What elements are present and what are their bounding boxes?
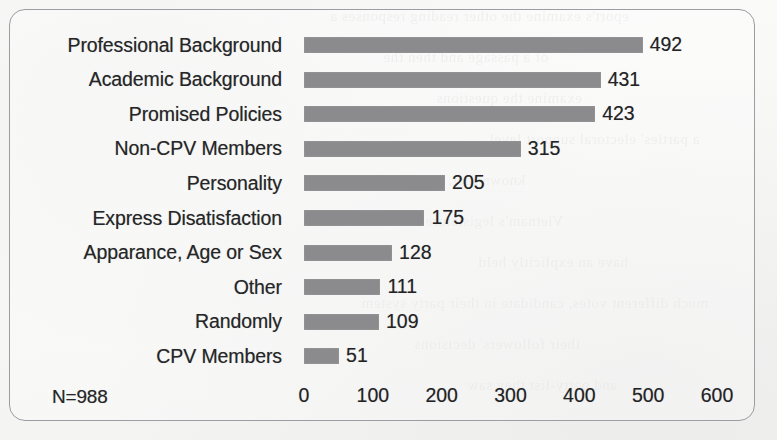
- bar-row: Randomly109: [0, 305, 777, 339]
- bar-value-label: 175: [431, 206, 464, 229]
- bar-row: Professional Background492: [0, 28, 777, 62]
- bar: [304, 210, 424, 226]
- category-label: Other: [0, 276, 292, 299]
- bar: [304, 175, 445, 191]
- x-tick-label: 600: [701, 384, 734, 407]
- category-label: Promised Policies: [0, 103, 292, 126]
- x-axis-tick-labels: 0100200300400500600: [0, 384, 777, 418]
- bar-row: Non-CPV Members315: [0, 132, 777, 166]
- category-label: Non-CPV Members: [0, 137, 292, 160]
- x-tick-label: 100: [357, 384, 390, 407]
- x-tick-label: 0: [299, 384, 310, 407]
- category-label: Professional Background: [0, 34, 292, 57]
- bar-track: 431: [292, 63, 777, 97]
- bar: [304, 72, 601, 88]
- bar: [304, 245, 392, 261]
- bar-chart-plot-area: Professional Background492Academic Backg…: [0, 0, 777, 440]
- bar-row: Personality205: [0, 166, 777, 200]
- bar: [304, 279, 380, 295]
- bar-row: Promised Policies423: [0, 97, 777, 131]
- bar: [304, 314, 379, 330]
- bar: [304, 37, 643, 53]
- bar-track: 128: [292, 236, 777, 270]
- bar-track: 423: [292, 97, 777, 131]
- bar-track: 111: [292, 270, 777, 304]
- bar-value-label: 492: [650, 33, 683, 56]
- bar-value-label: 423: [602, 102, 635, 125]
- x-tick-label: 200: [425, 384, 458, 407]
- sample-size-annotation: N=988: [52, 386, 108, 408]
- category-label: CPV Members: [0, 345, 292, 368]
- category-label: Express Disatisfaction: [0, 207, 292, 230]
- bar-value-label: 128: [399, 241, 432, 264]
- bar-row: Apparance, Age or Sex128: [0, 236, 777, 270]
- bar-track: 205: [292, 166, 777, 200]
- bar-value-label: 109: [386, 310, 419, 333]
- bar: [304, 348, 339, 364]
- bar-row: CPV Members51: [0, 339, 777, 373]
- bar-track: 51: [292, 339, 777, 373]
- bar-track: 109: [292, 305, 777, 339]
- category-label: Randomly: [0, 310, 292, 333]
- bar-value-label: 431: [608, 68, 641, 91]
- bar-value-label: 205: [452, 171, 485, 194]
- bar: [304, 106, 595, 122]
- bar-row: Academic Background431: [0, 63, 777, 97]
- category-label: Personality: [0, 172, 292, 195]
- bar-track: 492: [292, 28, 777, 62]
- category-label: Apparance, Age or Sex: [0, 241, 292, 264]
- bar-value-label: 51: [346, 344, 368, 367]
- bar-value-label: 111: [387, 275, 417, 298]
- bar-track: 315: [292, 132, 777, 166]
- bar-track: 175: [292, 201, 777, 235]
- bar: [304, 141, 521, 157]
- category-label: Academic Background: [0, 68, 292, 91]
- bar-value-label: 315: [528, 137, 561, 160]
- x-tick-label: 500: [632, 384, 665, 407]
- bar-row: Other111: [0, 270, 777, 304]
- bar-row: Express Disatisfaction175: [0, 201, 777, 235]
- x-tick-label: 300: [494, 384, 527, 407]
- x-tick-label: 400: [563, 384, 596, 407]
